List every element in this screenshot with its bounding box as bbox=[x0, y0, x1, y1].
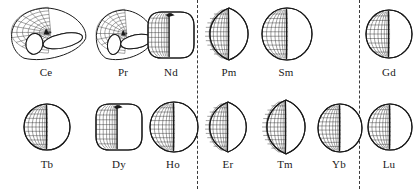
shape-render-sm bbox=[262, 8, 312, 60]
shape-render-lu bbox=[368, 104, 412, 150]
shape-gd bbox=[366, 10, 412, 58]
shape-tb bbox=[24, 104, 70, 150]
shape-render-dy bbox=[96, 104, 142, 150]
element-label-sm: Sm bbox=[260, 66, 312, 78]
element-label-tm: Tm bbox=[260, 158, 310, 170]
shape-render-yb bbox=[318, 104, 362, 152]
shape-render-gd bbox=[366, 10, 412, 58]
element-label-dy: Dy bbox=[94, 158, 144, 170]
shape-dy bbox=[96, 104, 142, 150]
shape-render-ce bbox=[6, 8, 86, 60]
nuclear-shape-figure: CePrNdPmSmGdTbDyHoErTmYbLu bbox=[0, 0, 417, 189]
shape-ho bbox=[150, 102, 198, 152]
element-label-nd: Nd bbox=[148, 66, 194, 78]
shape-render-ho bbox=[150, 102, 198, 152]
element-label-pr: Pr bbox=[92, 66, 154, 78]
shape-er bbox=[205, 102, 251, 152]
shape-pr bbox=[92, 10, 154, 60]
shape-sm bbox=[262, 8, 312, 60]
shape-render-pr bbox=[92, 10, 154, 60]
shape-render-pm bbox=[205, 8, 253, 60]
shape-ce bbox=[6, 8, 86, 60]
element-label-tb: Tb bbox=[22, 158, 72, 170]
element-label-lu: Lu bbox=[364, 158, 414, 170]
element-label-pm: Pm bbox=[203, 66, 255, 78]
element-label-ho: Ho bbox=[148, 158, 198, 170]
element-label-gd: Gd bbox=[364, 66, 414, 78]
shape-render-er bbox=[205, 102, 251, 152]
element-label-er: Er bbox=[203, 158, 253, 170]
element-label-ce: Ce bbox=[6, 66, 86, 78]
shape-lu bbox=[368, 104, 412, 150]
shape-render-tm bbox=[262, 100, 310, 154]
shape-yb bbox=[318, 104, 362, 152]
shape-render-nd bbox=[148, 12, 194, 58]
shape-tm bbox=[262, 100, 310, 154]
shape-nd bbox=[148, 12, 194, 58]
shape-pm bbox=[205, 8, 253, 60]
shape-render-tb bbox=[24, 104, 70, 150]
element-label-yb: Yb bbox=[314, 158, 364, 170]
